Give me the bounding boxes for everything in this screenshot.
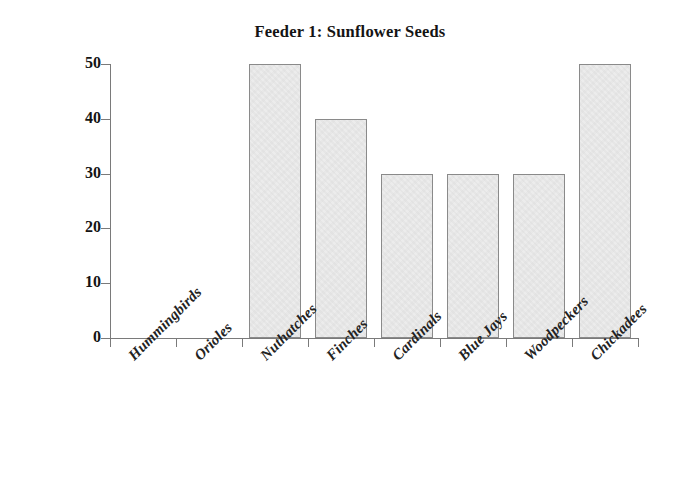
- y-axis-tick: [101, 174, 110, 175]
- x-axis-tick: [242, 339, 243, 347]
- bar: [381, 174, 433, 338]
- x-axis-tick: [308, 339, 309, 347]
- x-axis-tick: [176, 339, 177, 347]
- y-axis-tick: [101, 228, 110, 229]
- bar: [315, 119, 367, 338]
- y-axis-tick-label: 20: [48, 219, 101, 235]
- y-axis-tick-label: 50: [48, 55, 101, 71]
- y-axis-tick: [101, 283, 110, 284]
- y-axis-tick: [101, 119, 110, 120]
- x-axis-tick: [440, 339, 441, 347]
- x-axis-tick: [374, 339, 375, 347]
- x-axis-tick: [506, 339, 507, 347]
- y-axis-tick-label: 40: [48, 110, 101, 126]
- x-axis-tick: [638, 339, 639, 347]
- y-axis-line: [110, 64, 111, 339]
- bar-chart: Feeder 1: Sunflower Seeds 01020304050 Hu…: [0, 0, 680, 498]
- y-axis-tick-label: 10: [48, 274, 101, 290]
- x-axis-label: Orioles: [191, 319, 236, 364]
- y-axis-tick-label: 30: [48, 165, 101, 181]
- bar: [447, 174, 499, 338]
- y-axis-tick-label: 0: [48, 329, 101, 345]
- bar: [579, 64, 631, 338]
- x-axis-tick: [572, 339, 573, 347]
- y-axis-tick: [101, 338, 110, 339]
- bar: [513, 174, 565, 338]
- chart-title: Feeder 1: Sunflower Seeds: [0, 22, 680, 42]
- x-axis-tick: [110, 339, 111, 347]
- y-axis-tick: [101, 64, 110, 65]
- bar: [249, 64, 301, 338]
